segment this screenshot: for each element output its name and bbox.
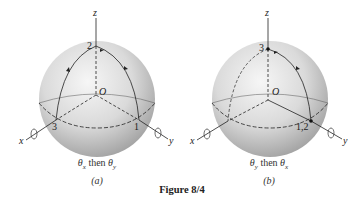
point-label-right-a: 1 — [134, 122, 139, 132]
z-axis-label-b: z — [265, 8, 269, 18]
x-axis-label-a: x — [19, 136, 23, 146]
panel-a-diagram — [26, 18, 168, 157]
y-axis-label-a: y — [169, 136, 173, 146]
sphere-a — [39, 41, 155, 157]
caption-then: then — [258, 157, 280, 168]
caption-sub: y — [113, 163, 116, 171]
panel-tag-b: (b) — [263, 176, 275, 186]
point-marker-12 — [309, 119, 313, 123]
panel-b-diagram — [197, 18, 342, 157]
point-label-right-b: 1,2 — [296, 122, 309, 132]
point-label-left-a: 3 — [52, 122, 57, 132]
figure-title: Figure 8/4 — [159, 184, 205, 195]
point-marker-3 — [266, 47, 270, 51]
caption-a: θx then θy — [78, 158, 116, 171]
caption-sub: x — [285, 163, 288, 171]
origin-label-b: O — [272, 87, 279, 97]
z-axis-label-a: z — [93, 8, 97, 18]
figure-canvas — [0, 0, 363, 208]
sphere-b — [212, 41, 328, 157]
panel-tag-a: (a) — [91, 176, 103, 186]
point-label-top-a: 2 — [87, 41, 92, 51]
y-axis-label-b: y — [343, 136, 347, 146]
point-label-top-b: 3 — [259, 43, 264, 53]
caption-then: then — [86, 157, 108, 168]
origin-label-a: O — [99, 87, 106, 97]
caption-b: θy then θx — [250, 158, 288, 171]
rotation-symbol-y-icon — [155, 128, 161, 138]
rotation-symbol-x-icon — [31, 129, 37, 139]
x-axis-label-b: x — [190, 136, 194, 146]
